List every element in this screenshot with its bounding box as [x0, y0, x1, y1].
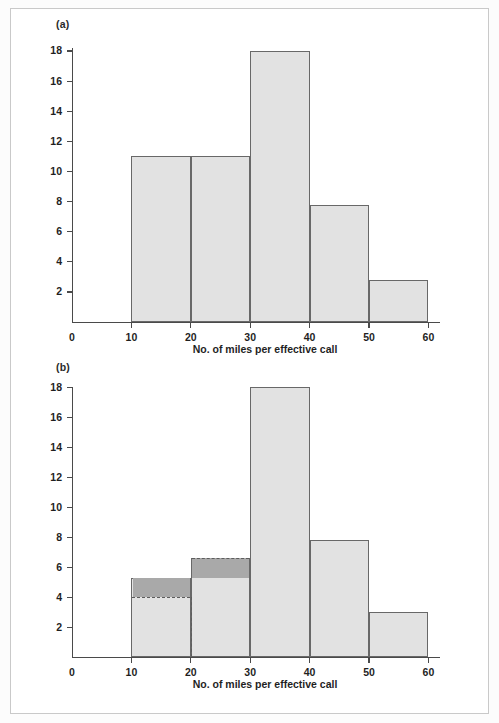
- histogram-bar: [310, 205, 369, 322]
- y-tick-label-18: 18: [40, 45, 62, 55]
- y-tick-label-16: 16: [40, 412, 62, 422]
- y-tick-label-12: 12: [40, 472, 62, 482]
- y-axis-line: [72, 387, 73, 658]
- y-tick-6: [67, 231, 72, 232]
- x-tick-50: [368, 658, 369, 663]
- x-tick-label-0: 0: [60, 667, 84, 677]
- bar-overlay-segment: [192, 558, 249, 578]
- x-tick-label-0: 0: [60, 332, 84, 342]
- figure-page: (a) 246810121416180102030405060 No. of m…: [0, 0, 499, 723]
- histogram-bar: [369, 612, 428, 657]
- x-tick-label-50: 50: [357, 667, 381, 677]
- histogram-bar: [131, 156, 190, 322]
- y-tick-2: [67, 627, 72, 628]
- x-axis-line: [72, 657, 440, 658]
- x-tick-10: [131, 323, 132, 328]
- y-tick-16: [67, 417, 72, 418]
- x-tick-label-10: 10: [119, 332, 143, 342]
- x-tick-label-20: 20: [179, 667, 203, 677]
- x-tick-20: [190, 323, 191, 328]
- dashed-guide-line: [191, 597, 192, 657]
- y-tick-label-10: 10: [40, 166, 62, 176]
- y-tick-label-10: 10: [40, 502, 62, 512]
- bar-overlay-segment: [133, 578, 190, 598]
- x-tick-label-60: 60: [416, 667, 440, 677]
- plot-area-a: 246810121416180102030405060: [0, 0, 499, 360]
- y-tick-16: [67, 81, 72, 82]
- dashed-level-line: [132, 597, 189, 598]
- x-axis-title-b: No. of miles per effective call: [150, 678, 380, 690]
- plot-area-b: 246810121416180102030405060: [0, 360, 499, 723]
- panel-a: (a) 246810121416180102030405060 No. of m…: [0, 0, 499, 360]
- y-tick-12: [67, 141, 72, 142]
- x-tick-label-20: 20: [179, 332, 203, 342]
- x-tick-30: [250, 658, 251, 663]
- panel-b: (b) 246810121416180102030405060 No. of m…: [0, 360, 499, 723]
- y-tick-8: [67, 537, 72, 538]
- y-tick-4: [67, 261, 72, 262]
- x-tick-60: [428, 323, 429, 328]
- x-tick-40: [309, 658, 310, 663]
- x-axis-title-a: No. of miles per effective call: [150, 343, 380, 355]
- x-tick-60: [428, 658, 429, 663]
- y-tick-4: [67, 597, 72, 598]
- y-tick-label-12: 12: [40, 136, 62, 146]
- y-tick-2: [67, 291, 72, 292]
- histogram-bar: [250, 51, 309, 322]
- x-tick-20: [190, 658, 191, 663]
- x-tick-50: [368, 323, 369, 328]
- y-tick-label-4: 4: [40, 256, 62, 266]
- x-tick-label-30: 30: [238, 332, 262, 342]
- x-axis-line: [72, 322, 440, 323]
- x-tick-40: [309, 323, 310, 328]
- y-tick-12: [67, 477, 72, 478]
- histogram-bar: [310, 540, 369, 657]
- y-axis-line: [72, 48, 73, 323]
- histogram-bar: [191, 156, 250, 322]
- y-tick-14: [67, 447, 72, 448]
- y-tick-label-4: 4: [40, 592, 62, 602]
- y-tick-label-8: 8: [40, 532, 62, 542]
- x-tick-label-30: 30: [238, 667, 262, 677]
- y-tick-10: [67, 507, 72, 508]
- y-tick-label-8: 8: [40, 196, 62, 206]
- histogram-bar: [369, 280, 428, 322]
- y-tick-8: [67, 201, 72, 202]
- y-tick-label-6: 6: [40, 226, 62, 236]
- x-tick-10: [131, 658, 132, 663]
- y-tick-14: [67, 111, 72, 112]
- x-tick-label-50: 50: [357, 332, 381, 342]
- y-tick-6: [67, 567, 72, 568]
- x-tick-label-40: 40: [298, 332, 322, 342]
- histogram-bar: [250, 387, 309, 657]
- y-tick-18: [67, 387, 72, 388]
- x-tick-label-10: 10: [119, 667, 143, 677]
- y-tick-label-14: 14: [40, 442, 62, 452]
- x-tick-30: [250, 323, 251, 328]
- y-tick-label-18: 18: [40, 382, 62, 392]
- y-tick-label-2: 2: [40, 622, 62, 632]
- y-tick-18: [67, 50, 72, 51]
- y-tick-label-16: 16: [40, 76, 62, 86]
- dashed-level-line: [192, 558, 249, 559]
- y-tick-label-2: 2: [40, 286, 62, 296]
- y-tick-label-6: 6: [40, 562, 62, 572]
- x-tick-label-60: 60: [416, 332, 440, 342]
- y-tick-label-14: 14: [40, 106, 62, 116]
- y-tick-10: [67, 171, 72, 172]
- x-tick-label-40: 40: [298, 667, 322, 677]
